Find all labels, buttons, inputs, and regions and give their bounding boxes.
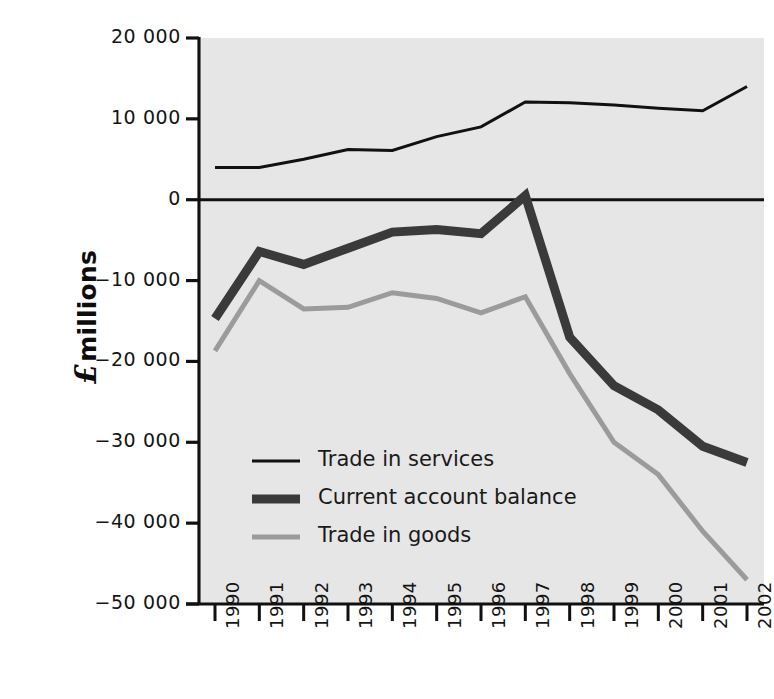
x-axis-tick-label: 1995: [444, 581, 465, 629]
x-axis-tick-label: 1992: [311, 581, 332, 629]
y-axis-tick-label: −40 000: [51, 510, 181, 532]
x-axis-tick-label: 1998: [577, 581, 598, 629]
x-axis-tick-label: 2000: [665, 581, 686, 629]
legend-label: Trade in services: [318, 447, 494, 471]
x-axis-tick-label: 1994: [399, 581, 420, 629]
plot-background: [201, 38, 764, 604]
x-axis-tick-label: 1999: [621, 581, 642, 629]
x-axis-tick-label: 1991: [266, 581, 287, 629]
chart-container: £millions 20 00010 0000−10 000−20 000−30…: [0, 0, 774, 699]
x-axis-tick-label: 1990: [222, 581, 243, 629]
x-axis-tick-label: 1996: [488, 581, 509, 629]
y-axis-tick-label: 0: [51, 187, 181, 209]
y-axis-tick-label: −10 000: [51, 268, 181, 290]
legend-label: Trade in goods: [318, 523, 471, 547]
x-axis-tick-label: 2001: [710, 581, 731, 629]
y-axis-tick-label: −30 000: [51, 429, 181, 451]
x-axis-tick-label: 1993: [355, 581, 376, 629]
y-axis-title: £millions: [69, 227, 103, 407]
x-axis-tick-label: 1997: [532, 581, 553, 629]
y-axis-tick-label: 20 000: [51, 25, 181, 47]
y-axis-tick-label: 10 000: [51, 106, 181, 128]
y-axis-tick-label: −50 000: [51, 591, 181, 613]
x-axis-tick-label: 2002: [754, 581, 774, 629]
legend-label: Current account balance: [318, 485, 577, 509]
y-axis-tick-label: −20 000: [51, 348, 181, 370]
